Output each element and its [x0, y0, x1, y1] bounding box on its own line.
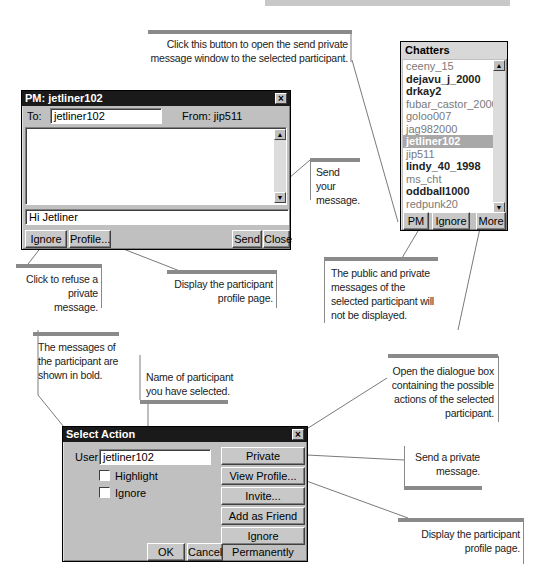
- invite-button[interactable]: Invite...: [221, 487, 305, 505]
- pm-window: PM: jetliner102 × To: jetliner102 From: …: [21, 90, 291, 250]
- pm-button[interactable]: PM: [403, 212, 429, 230]
- private-message-button[interactable]: Private Message...: [221, 447, 305, 465]
- callout-bar: [324, 257, 438, 261]
- chatter-item[interactable]: goloo007: [403, 110, 505, 123]
- ignore-permanently-button[interactable]: Ignore Permanently: [221, 527, 305, 545]
- dialog-title: Select Action: [66, 428, 135, 440]
- callout-line: [523, 520, 524, 564]
- chatter-item[interactable]: oddball1000: [403, 185, 505, 198]
- callout-bar: [148, 30, 352, 34]
- highlight-label: Highlight: [115, 470, 158, 482]
- scrollbar[interactable]: ▲ ▼: [274, 129, 286, 203]
- close-icon[interactable]: ×: [275, 93, 287, 104]
- pm-titlebar: PM: jetliner102 ×: [22, 91, 290, 106]
- callout-bar: [404, 486, 482, 490]
- callout-line: [310, 160, 311, 200]
- chatters-ignore-button[interactable]: Ignore: [432, 212, 470, 230]
- callout-private-msg: Send a private message.: [408, 450, 480, 478]
- ok-button[interactable]: OK: [147, 543, 185, 561]
- pm-title: PM: jetliner102: [25, 92, 103, 104]
- chatter-item[interactable]: redpunk20: [403, 198, 505, 211]
- select-action-dialog: Select Action × User: jetliner102 Highli…: [62, 426, 308, 562]
- chatters-title: Chatters: [401, 42, 507, 59]
- ignore-button[interactable]: Ignore: [25, 230, 67, 248]
- cancel-button[interactable]: Cancel: [187, 543, 223, 561]
- chatters-list[interactable]: ceeny_15 dejavu_j_2000 drkay2 fubar_cast…: [403, 60, 505, 213]
- scroll-down-icon[interactable]: ▼: [274, 192, 286, 203]
- send-button[interactable]: Send: [232, 230, 262, 248]
- callout-bar: [167, 270, 277, 274]
- callout-line: [498, 356, 499, 422]
- chatter-item[interactable]: lindy_40_1998: [403, 160, 505, 173]
- chatter-item[interactable]: dejavu_j_2000: [403, 73, 505, 86]
- close-icon[interactable]: ×: [292, 429, 304, 440]
- user-label: User:: [75, 451, 101, 463]
- chatter-item[interactable]: jag982000: [403, 123, 505, 136]
- message-history[interactable]: [25, 127, 287, 205]
- callout-profile: Display the participant profile page.: [167, 277, 273, 305]
- scroll-up-icon[interactable]: ▲: [274, 129, 286, 140]
- chatters-panel: Chatters ceeny_15 dejavu_j_2000 drkay2 f…: [400, 41, 508, 231]
- callout-send: Send your message.: [316, 165, 362, 207]
- callout-line: [101, 266, 102, 308]
- select-action-titlebar: Select Action ×: [63, 427, 307, 442]
- scroll-up-icon[interactable]: ▲: [493, 60, 505, 71]
- callout-line: [324, 259, 325, 323]
- callout-bar: [140, 400, 228, 404]
- callout-bar: [16, 264, 102, 268]
- more-button[interactable]: More: [476, 212, 506, 230]
- user-field[interactable]: jetliner102: [99, 449, 211, 465]
- callout-refuse: Click to refuse a private message.: [22, 272, 98, 314]
- ignore-checkbox[interactable]: [99, 487, 110, 498]
- callout-pm-button: Click this button to open the send priva…: [150, 37, 348, 65]
- callout-bold: The messages of the participant are show…: [38, 340, 122, 382]
- callout-name: Name of participant you have selected.: [146, 370, 236, 398]
- chatter-item[interactable]: ceeny_15: [403, 60, 505, 73]
- callout-more: Open the dialogue box containing the pos…: [386, 364, 494, 420]
- close-button[interactable]: Close: [263, 230, 290, 248]
- ignore-label: Ignore: [115, 487, 146, 499]
- callout-ignore: The public and private messages of the s…: [331, 266, 441, 322]
- callout-bar: [33, 332, 119, 336]
- profile-button[interactable]: Profile...: [69, 230, 111, 248]
- chatter-item[interactable]: fubar_castor_2000: [403, 98, 505, 111]
- callout-bar: [398, 518, 524, 522]
- callout-line: [276, 272, 277, 308]
- to-field[interactable]: jetliner102: [50, 108, 162, 124]
- callout-bar: [388, 354, 498, 358]
- highlight-checkbox[interactable]: [99, 470, 110, 481]
- add-friend-button[interactable]: Add as Friend: [221, 507, 305, 525]
- chatters-scrollbar[interactable]: ▲ ▼: [493, 60, 505, 213]
- message-input[interactable]: Hi Jetliner: [25, 209, 289, 225]
- chatter-item-selected[interactable]: jetliner102: [403, 135, 505, 148]
- chatter-item[interactable]: jip511: [403, 148, 505, 161]
- view-profile-button[interactable]: View Profile...: [221, 467, 305, 485]
- from-label: From: jip511: [182, 110, 242, 122]
- callout-view-profile: Display the participant profile page.: [410, 527, 520, 555]
- chatter-item[interactable]: drkay2: [403, 85, 505, 98]
- chatter-item[interactable]: ms_cht: [403, 173, 505, 186]
- to-label: To:: [27, 110, 42, 122]
- callout-bar: [310, 158, 360, 162]
- callout-line: [404, 446, 405, 488]
